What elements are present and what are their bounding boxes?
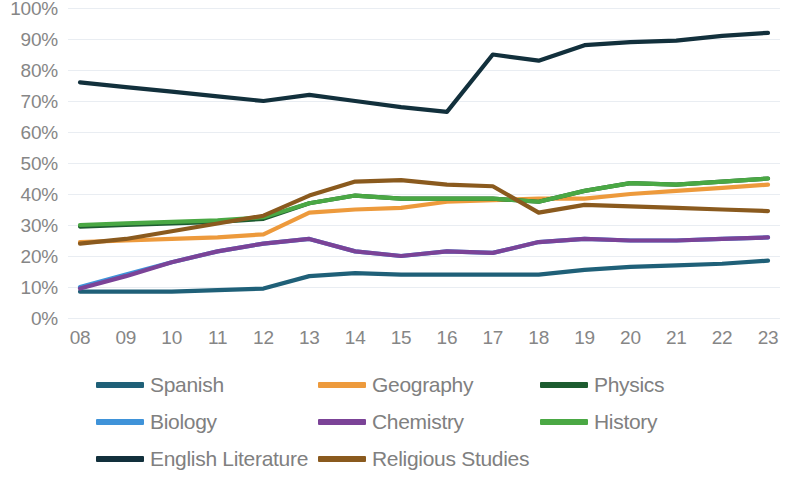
legend-swatch-icon [540, 382, 588, 388]
legend-item-geography[interactable]: Geography [318, 368, 473, 402]
legend-item-chemistry[interactable]: Chemistry [318, 405, 464, 439]
series-line-history [80, 179, 768, 226]
x-axis-tick-label: 19 [574, 328, 595, 348]
legend-item-religious-studies[interactable]: Religious Studies [318, 442, 529, 476]
x-axis-tick-label: 18 [528, 328, 549, 348]
y-axis-tick-label: 60% [21, 123, 58, 142]
x-axis-tick-label: 09 [115, 328, 136, 348]
y-axis-tick-label: 10% [21, 278, 58, 297]
y-axis: 100%90%80%70%60%50%40%30%20%10%0% [0, 0, 66, 318]
legend-swatch-icon [96, 382, 144, 388]
x-axis-tick-label: 22 [712, 328, 733, 348]
y-axis-tick-label: 50% [21, 154, 58, 173]
y-axis-tick-label: 100% [10, 0, 58, 18]
x-axis-tick-label: 20 [620, 328, 641, 348]
legend-row: English LiteratureReligious Studies [96, 442, 756, 476]
series-line-biology [80, 237, 768, 287]
y-axis-tick-label: 0% [31, 309, 58, 328]
y-axis-tick-label: 20% [21, 247, 58, 266]
legend-label: Religious Studies [372, 447, 529, 471]
x-axis-tick-label: 13 [299, 328, 320, 348]
x-axis-tick-label: 23 [758, 328, 779, 348]
x-axis-tick-label: 10 [161, 328, 182, 348]
legend-swatch-icon [318, 419, 366, 425]
legend-item-spanish[interactable]: Spanish [96, 368, 224, 402]
legend-label: Geography [372, 373, 473, 397]
legend-label: Chemistry [372, 410, 464, 434]
y-axis-tick-label: 70% [21, 92, 58, 111]
line-chart: 100%90%80%70%60%50%40%30%20%10%0% 080910… [0, 0, 787, 480]
y-axis-tick-label: 90% [21, 30, 58, 49]
legend-swatch-icon [96, 419, 144, 425]
x-axis: 08091011121314151617181920212223 [68, 322, 780, 352]
y-axis-tick-label: 30% [21, 216, 58, 235]
legend-row: BiologyChemistryHistory [96, 405, 756, 439]
chart-legend: SpanishGeographyPhysicsBiologyChemistryH… [96, 368, 756, 476]
legend-swatch-icon [318, 382, 366, 388]
legend-label: Spanish [150, 373, 224, 397]
x-axis-tick-label: 08 [70, 328, 91, 348]
series-line-english-literature [80, 33, 768, 112]
legend-label: English Literature [150, 447, 308, 471]
x-axis-tick-label: 12 [253, 328, 274, 348]
legend-swatch-icon [540, 419, 588, 425]
x-axis-tick-label: 14 [345, 328, 366, 348]
series-line-geography [80, 185, 768, 242]
series-line-chemistry [80, 237, 768, 288]
x-axis-tick-label: 15 [391, 328, 412, 348]
legend-item-history[interactable]: History [540, 405, 657, 439]
x-axis-tick-label: 16 [437, 328, 458, 348]
legend-swatch-icon [318, 456, 366, 462]
plot-area [68, 8, 780, 318]
y-axis-tick-label: 80% [21, 61, 58, 80]
legend-swatch-icon [96, 456, 144, 462]
series-line-spanish [80, 261, 768, 292]
legend-item-biology[interactable]: Biology [96, 405, 217, 439]
legend-label: History [594, 410, 657, 434]
legend-label: Biology [150, 410, 217, 434]
gridline [68, 318, 780, 319]
legend-row: SpanishGeographyPhysics [96, 368, 756, 402]
x-axis-tick-label: 21 [666, 328, 687, 348]
legend-label: Physics [594, 373, 664, 397]
y-axis-tick-label: 40% [21, 185, 58, 204]
x-axis-tick-label: 11 [208, 328, 227, 348]
series-lines [68, 8, 780, 318]
x-axis-tick-label: 17 [482, 328, 503, 348]
legend-item-physics[interactable]: Physics [540, 368, 664, 402]
legend-item-english-literature[interactable]: English Literature [96, 442, 308, 476]
